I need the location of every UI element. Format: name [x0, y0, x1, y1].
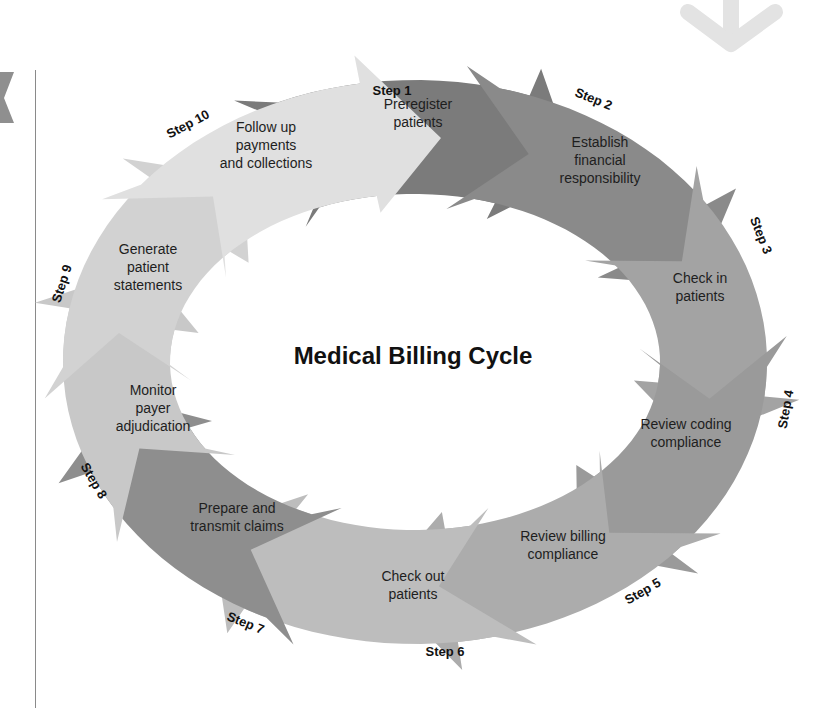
cycle-diagram: PreregisterpatientsStep 1Establishfinanc…	[0, 0, 828, 708]
step-2-label: Step 2	[573, 85, 615, 114]
step-1-label: Step 1	[372, 83, 411, 98]
step-3-label: Step 3	[747, 214, 776, 256]
down-arrow-icon	[688, 0, 775, 44]
diagram-title: Medical Billing Cycle	[294, 342, 533, 369]
diagram-canvas: PreregisterpatientsStep 1Establishfinanc…	[0, 0, 828, 708]
left-chevron-icon	[0, 72, 14, 123]
step-6-label: Step 6	[425, 644, 464, 659]
step-4-label: Step 4	[775, 388, 797, 430]
